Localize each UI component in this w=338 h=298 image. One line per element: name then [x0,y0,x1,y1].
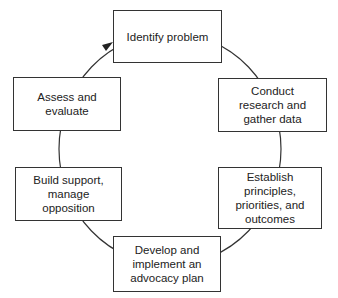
step-label: Assess and evaluate [18,90,116,118]
step-label: Establish principles, priorities, and ou… [222,170,318,226]
step-conduct-research: Conduct research and gather data [218,78,327,132]
cycle-arc [59,33,281,265]
step-identify-problem: Identify problem [113,10,222,63]
step-develop-plan: Develop and implement an advocacy plan [113,236,221,292]
step-label: Build support, manage opposition [22,173,115,215]
step-establish-principles: Establish principles, priorities, and ou… [218,167,322,229]
arrowhead-icon [102,42,113,51]
step-label: Conduct research and gather data [229,84,316,126]
step-assess-evaluate: Assess and evaluate [13,77,121,131]
step-label: Develop and implement an advocacy plan [128,243,206,285]
step-build-support: Build support, manage opposition [15,167,122,221]
step-label: Identify problem [127,30,209,44]
